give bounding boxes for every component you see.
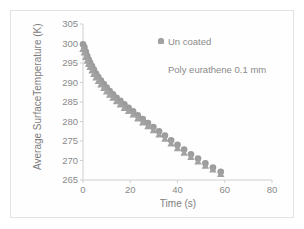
chart-legend: Un coated Poly eurathene 0.1 mm [158, 36, 267, 76]
legend-item-un-coated: Un coated [158, 36, 211, 47]
legend-label-poly-eurathene: Poly eurathene 0.1 mm [168, 64, 266, 75]
x-axis-tick-labels: 020406080 [80, 184, 277, 195]
y-tick-label: 290 [62, 77, 78, 88]
y-tick-label: 300 [62, 38, 78, 49]
x-tick-label: 60 [219, 184, 230, 195]
legend-label-un-coated: Un coated [168, 36, 211, 47]
x-tick-label: 80 [267, 184, 278, 195]
y-tick-label: 280 [62, 116, 78, 127]
y-axis-title: Average SurfaceTemperature (K) [32, 23, 43, 170]
chart-axes [83, 24, 272, 180]
y-tick-label: 295 [62, 57, 78, 68]
y-tick-label: 270 [62, 155, 78, 166]
y-tick-label: 305 [62, 18, 78, 29]
y-axis-tick-labels: 265270275280285290295300305 [62, 18, 78, 185]
x-axis-title: Time (s) [160, 198, 196, 209]
data-series-layer [79, 41, 224, 177]
x-tick-label: 0 [80, 184, 85, 195]
y-tick-label: 275 [62, 135, 78, 146]
series-un-coated [80, 41, 224, 175]
y-tick-label: 285 [62, 96, 78, 107]
x-tick-label: 20 [125, 184, 136, 195]
x-tick-label: 40 [172, 184, 183, 195]
cooling-curve-chart: 265270275280285290295300305 020406080 Av… [0, 0, 304, 229]
y-tick-label: 265 [62, 174, 78, 185]
